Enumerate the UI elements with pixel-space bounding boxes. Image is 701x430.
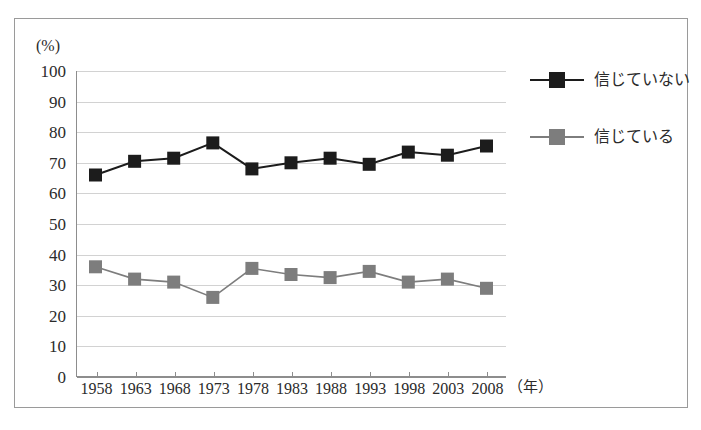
- gridline-70: [77, 163, 506, 164]
- y-tick-label-70: 70: [0, 155, 66, 172]
- y-tick-label-100: 100: [0, 63, 66, 80]
- chart-legend: 信じていない 信じている: [530, 66, 680, 180]
- x-tick-mark-2008: [487, 372, 488, 378]
- x-tick-mark-1968: [175, 372, 176, 378]
- y-tick-label-80: 80: [0, 124, 66, 141]
- y-tick-label-90: 90: [0, 94, 66, 111]
- x-tick-mark-2003: [448, 372, 449, 378]
- gridline-100: [77, 71, 506, 72]
- x-tick-mark-1998: [409, 372, 410, 378]
- x-tick-label-1998: 1998: [393, 381, 425, 397]
- x-tick-mark-1993: [370, 372, 371, 378]
- legend-square-gray-icon: [549, 129, 565, 145]
- x-tick-mark-1978: [253, 372, 254, 378]
- x-tick-label-1958: 1958: [81, 381, 113, 397]
- y-tick-label-50: 50: [0, 216, 66, 233]
- gridline-60: [77, 193, 506, 194]
- x-tick-mark-1988: [331, 372, 332, 378]
- legend-marker-dark-square-icon: [530, 70, 584, 90]
- legend-marker-gray-square-icon: [530, 127, 584, 147]
- line-chart: (%) 195819631968197319781983198819931998…: [0, 0, 701, 430]
- gridline-90: [77, 102, 506, 103]
- x-tick-label-1993: 1993: [354, 381, 386, 397]
- x-tick-mark-1983: [292, 372, 293, 378]
- x-tick-label-2008: 2008: [471, 381, 503, 397]
- x-tick-label-1963: 1963: [120, 381, 152, 397]
- y-tick-label-20: 20: [0, 308, 66, 325]
- y-tick-label-40: 40: [0, 247, 66, 264]
- x-tick-mark-1963: [136, 372, 137, 378]
- y-tick-label-30: 30: [0, 277, 66, 294]
- x-axis-unit-label: （年）: [508, 380, 553, 395]
- legend-item-believe[interactable]: 信じている: [530, 123, 680, 151]
- gridline-80: [77, 132, 506, 133]
- y-tick-label-10: 10: [0, 338, 66, 355]
- gridline-20: [77, 316, 506, 317]
- y-tick-label-60: 60: [0, 185, 66, 202]
- y-axis-unit-label: (%): [36, 38, 60, 54]
- chart-page: (%) 195819631968197319781983198819931998…: [0, 0, 701, 430]
- x-tick-mark-1958: [97, 372, 98, 378]
- x-tick-label-1968: 1968: [159, 381, 191, 397]
- x-tick-label-1988: 1988: [315, 381, 347, 397]
- plot-area: 1958196319681973197819831988199319982003…: [76, 71, 506, 377]
- legend-label-believe: 信じている: [594, 129, 674, 145]
- x-tick-label-1983: 1983: [276, 381, 308, 397]
- x-tick-mark-1973: [214, 372, 215, 378]
- gridline-10: [77, 346, 506, 347]
- gridline-40: [77, 255, 506, 256]
- x-tick-label-2003: 2003: [432, 381, 464, 397]
- x-tick-label-1973: 1973: [198, 381, 230, 397]
- x-tick-label-1978: 1978: [237, 381, 269, 397]
- legend-square-dark-icon: [549, 72, 565, 88]
- y-tick-label-0: 0: [0, 369, 66, 386]
- legend-item-disbelieve[interactable]: 信じていない: [530, 66, 680, 94]
- gridline-30: [77, 285, 506, 286]
- gridline-50: [77, 224, 506, 225]
- legend-label-disbelieve: 信じていない: [594, 72, 690, 88]
